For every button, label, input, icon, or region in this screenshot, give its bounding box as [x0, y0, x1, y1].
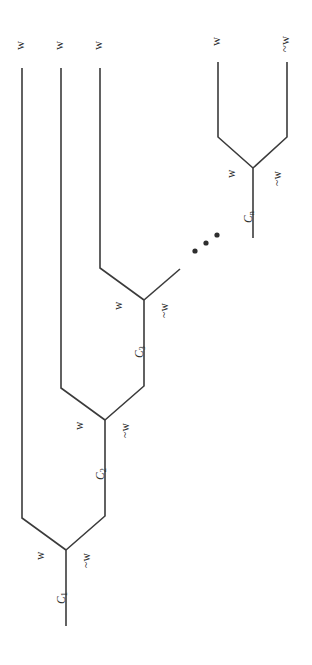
node-label-c3: C3 — [134, 346, 146, 358]
ellipsis-dot-3 — [214, 232, 219, 237]
leaf-label-1: w — [14, 41, 27, 50]
branch-label-c3-right: ~w — [159, 303, 171, 318]
branch-label-cn-right: ~w — [272, 171, 284, 186]
leaf-label-4: w — [210, 37, 223, 46]
node-label-c2: C2 — [95, 468, 107, 480]
node-label-c1-subscript: 1 — [60, 592, 69, 596]
node-label-cn: Cn — [243, 211, 255, 223]
node-label-c1: C1 — [56, 592, 68, 604]
edge-leaf5-to-cn — [253, 62, 287, 168]
branch-label-cn-left: w — [226, 169, 238, 178]
node-label-cn-base: C — [242, 215, 254, 223]
edge-c2-to-c1 — [66, 420, 105, 550]
edge-leaf4-to-cn — [218, 62, 253, 168]
branch-label-c2-left: w — [74, 421, 86, 430]
node-label-c1-base: C — [55, 596, 67, 604]
edge-leaf2-to-c2 — [61, 68, 105, 420]
branch-label-c3-left: w — [113, 301, 125, 310]
branch-label-c1-left: w — [35, 551, 47, 560]
node-label-c2-subscript: 2 — [99, 468, 108, 472]
leaf-label-3: w — [92, 41, 105, 50]
leaf-label-5: ~w — [279, 36, 292, 52]
edge-c3-right-branch — [144, 269, 180, 300]
tree-diagram-figure: w w w w ~w w ~w Cn w ~w C3 w ~w C2 w ~w … — [0, 0, 312, 665]
edge-leaf3-to-c3 — [100, 68, 144, 300]
ellipsis-dot-2 — [203, 240, 208, 245]
node-label-c3-base: C — [133, 350, 145, 358]
edge-leaf1-to-c1 — [22, 68, 66, 550]
node-label-c3-subscript: 3 — [138, 346, 147, 350]
edge-c3-to-c2 — [105, 300, 144, 420]
leaf-label-2: w — [53, 41, 66, 50]
ellipsis-dot-1 — [192, 248, 197, 253]
branch-label-c1-right: ~w — [81, 553, 93, 568]
node-label-c2-base: C — [94, 472, 106, 480]
tree-svg-canvas — [0, 0, 312, 665]
branch-label-c2-right: ~w — [120, 423, 132, 438]
node-label-cn-subscript: n — [247, 211, 256, 215]
